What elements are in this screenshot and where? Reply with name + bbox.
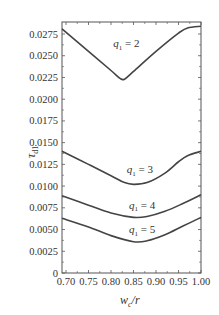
x-tick-label: 0.70 xyxy=(57,276,75,287)
y-tick-label: 0.0250 xyxy=(29,50,58,61)
curve-label: q1 = 5 xyxy=(129,223,156,238)
x-tick-label: 0.80 xyxy=(102,276,120,287)
curve-label: q1 = 3 xyxy=(127,163,154,178)
line-chart: 0.700.750.800.850.900.951.0000.00250.005… xyxy=(0,0,219,315)
x-tick-label: 0.85 xyxy=(124,276,142,287)
y-tick-label: 0.0050 xyxy=(29,224,58,235)
y-tick-label: 0.0125 xyxy=(29,159,58,170)
curve-label: q1 = 2 xyxy=(113,37,139,52)
y-tick-label: 0.0075 xyxy=(29,202,58,213)
y-axis-label: τd1 xyxy=(24,146,40,158)
y-tick-label: 0.0175 xyxy=(29,115,58,126)
y-tick-label: 0 xyxy=(53,268,58,279)
axis-ticks: 0.700.750.800.850.900.951.0000.00250.005… xyxy=(29,22,210,287)
y-tick-label: 0.0200 xyxy=(29,94,58,105)
y-tick-label: 0.0225 xyxy=(29,72,58,83)
x-axis-label: wc/r xyxy=(120,293,140,309)
y-tick-label: 0.0275 xyxy=(29,29,58,40)
x-tick-label: 1.00 xyxy=(192,276,210,287)
x-tick-label: 0.95 xyxy=(169,276,187,287)
x-tick-label: 0.90 xyxy=(147,276,165,287)
x-tick-label: 0.75 xyxy=(79,276,97,287)
series-line-q1-2 xyxy=(62,26,201,80)
y-tick-label: 0.0025 xyxy=(29,246,58,257)
plot-border xyxy=(62,22,201,273)
curve-label: q1 = 4 xyxy=(129,199,156,214)
curve-labels: q1 = 2q1 = 3q1 = 4q1 = 5 xyxy=(113,37,155,237)
y-tick-label: 0.0100 xyxy=(29,181,58,192)
plot-frame xyxy=(62,22,201,273)
